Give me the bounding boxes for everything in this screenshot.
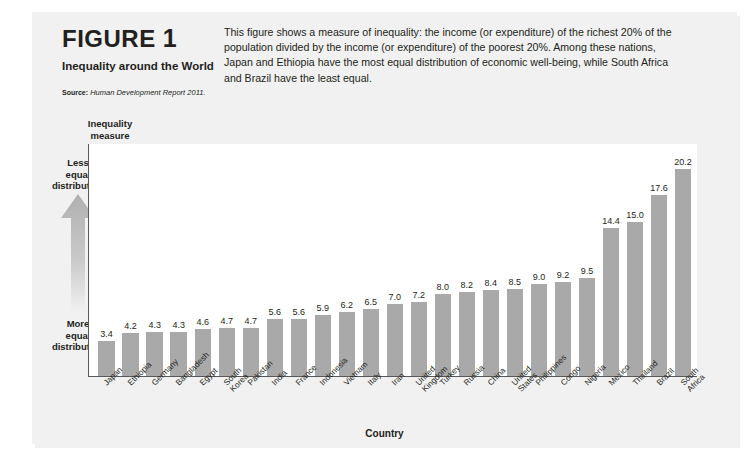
bar (603, 228, 619, 376)
figure-source: Source: Human Development Report 2011. (62, 88, 206, 97)
bar-item: 6.5 (359, 144, 383, 376)
bar-item: 20.2 (671, 144, 695, 376)
bar-value-label: 9.5 (581, 266, 594, 276)
bar (675, 169, 691, 376)
bar-item: 4.6 (191, 144, 215, 376)
bar (483, 290, 499, 376)
bar-item: 7.2 (407, 144, 431, 376)
bar-value-label: 8.2 (461, 280, 474, 290)
bar-item: 5.6 (263, 144, 287, 376)
bar-item: 4.3 (143, 144, 167, 376)
bar-item: 6.2 (335, 144, 359, 376)
y-axis-title: Inequality measure (70, 118, 150, 141)
bar (315, 315, 331, 376)
bar-item: 8.2 (455, 144, 479, 376)
bar-value-label: 8.5 (509, 277, 522, 287)
bar-item: 3.4 (95, 144, 119, 376)
figure-label: FIGURE (62, 25, 156, 52)
bar-value-label: 17.6 (650, 183, 668, 193)
bar-value-label: 5.6 (268, 307, 281, 317)
bar-item: 4.2 (119, 144, 143, 376)
bar-item: 17.6 (647, 144, 671, 376)
bar-value-label: 3.4 (100, 329, 113, 339)
figure-header: FIGURE1 Inequality around the World Sour… (32, 12, 737, 110)
bar (627, 222, 643, 376)
bar-value-label: 4.7 (220, 316, 233, 326)
bar-value-label: 20.2 (674, 157, 692, 167)
bar-item: 9.0 (527, 144, 551, 376)
bar (291, 319, 307, 376)
bar-item: 9.5 (575, 144, 599, 376)
bar-item: 15.0 (623, 144, 647, 376)
bar-value-label: 7.0 (389, 292, 402, 302)
bar (387, 304, 403, 376)
bar-value-label: 8.4 (485, 278, 498, 288)
bar-item: 5.6 (287, 144, 311, 376)
bar-value-label: 4.7 (244, 316, 257, 326)
bar-value-label: 8.0 (437, 282, 450, 292)
bar-item: 4.7 (239, 144, 263, 376)
bar-item: 5.9 (311, 144, 335, 376)
bar-value-label: 7.2 (413, 290, 426, 300)
bar-value-label: 4.3 (148, 320, 161, 330)
bar-item: 8.4 (479, 144, 503, 376)
figure-description: This figure shows a measure of inequalit… (224, 25, 684, 86)
bar (411, 302, 427, 376)
source-text: Human Development Report 2011. (90, 88, 205, 97)
bar (459, 292, 475, 376)
bar (579, 278, 595, 376)
bar-item: 8.5 (503, 144, 527, 376)
bar-value-label: 5.9 (316, 303, 329, 313)
bar-item: 8.0 (431, 144, 455, 376)
figure-card: FIGURE1 Inequality around the World Sour… (32, 12, 737, 444)
bar-value-label: 4.3 (172, 320, 185, 330)
bar-item: 7.0 (383, 144, 407, 376)
bar-series: 3.44.24.34.34.64.74.75.65.65.96.26.57.07… (91, 144, 697, 376)
bar-value-label: 9.2 (557, 270, 570, 280)
figure-title: FIGURE1 (62, 24, 177, 53)
bar (651, 195, 667, 376)
source-label: Source: (62, 89, 88, 96)
bar-item: 14.4 (599, 144, 623, 376)
bar-value-label: 6.5 (365, 297, 378, 307)
bar-item: 4.3 (167, 144, 191, 376)
bar-item: 4.7 (215, 144, 239, 376)
bar-value-label: 15.0 (626, 210, 644, 220)
bar-item: 9.2 (551, 144, 575, 376)
x-axis-title: Country (32, 428, 737, 439)
bar-value-label: 5.6 (292, 307, 305, 317)
chart-region: Inequality measure Less equal distributi… (32, 110, 737, 444)
bar (507, 289, 523, 376)
plot-area: 3.44.24.34.34.64.74.75.65.65.96.26.57.07… (88, 144, 697, 377)
bar (531, 284, 547, 376)
bar-value-label: 14.4 (602, 216, 620, 226)
bar-value-label: 9.0 (533, 272, 546, 282)
bar-value-label: 6.2 (341, 300, 354, 310)
figure-subtitle: Inequality around the World (62, 60, 214, 72)
bar-value-label: 4.2 (124, 321, 137, 331)
figure-number: 1 (156, 24, 177, 52)
bar-value-label: 4.6 (196, 317, 209, 327)
